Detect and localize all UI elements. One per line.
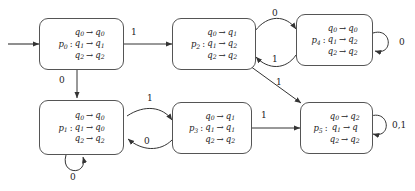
state-p5-label: p5 [313, 123, 324, 133]
edge-label-p1-self: 0 [70, 172, 76, 182]
map-row: q0→q0 [328, 23, 358, 35]
map-row: q1→q2 [328, 34, 358, 46]
edge-p2-p4 [255, 18, 296, 31]
map-row: q0→q1 [205, 111, 235, 123]
edge-label-p3-p5: 1 [261, 110, 267, 120]
map-row: q0→q0 [75, 27, 105, 39]
state-p1-label: p1 [58, 123, 69, 133]
edge-label-p0-p2: 1 [131, 27, 137, 37]
map-row: q2→q2 [328, 46, 358, 58]
edge-label-p4-p2: 1 [272, 54, 278, 64]
edge-p1-p3 [127, 108, 172, 120]
map-row: q0→q0 [75, 110, 105, 122]
edge-label-p2-p4: 0 [272, 8, 278, 18]
automaton-diagram: p0 : q0→q0 q1→q1 q2→q2 p2 : q0→q1 q1→q2 … [0, 0, 415, 191]
self-loop-p5 [371, 115, 386, 134]
map-row: q1→q1 [75, 38, 105, 50]
map-row: q1→q0 [75, 122, 105, 134]
map-row: q2→q2 [205, 134, 235, 146]
state-p0-label: p0 [58, 39, 69, 49]
state-p1-maps: q0→q0 q1→q0 q2→q2 [75, 110, 105, 145]
state-p4-label: p4 [311, 35, 322, 45]
map-row: q1→q1 [205, 122, 235, 134]
edge-label-p4-self: 0 [399, 37, 405, 47]
state-p3-label: p3 [189, 123, 200, 133]
state-p3[interactable]: p3 : q0→q1 q1→q1 q2→q2 [172, 102, 252, 154]
edge-p3-p1 [128, 139, 172, 149]
map-row: q0→q1 [207, 27, 237, 39]
map-row: q1→q2 [207, 38, 237, 50]
map-row: q2→q2 [207, 50, 237, 62]
map-row: q2→q2 [75, 50, 105, 62]
state-p0-maps: q0→q0 q1→q1 q2→q2 [75, 27, 105, 62]
map-row: q0→q2 [330, 111, 360, 123]
map-row: q2→q2 [330, 134, 360, 146]
self-loop-p4 [373, 32, 388, 51]
state-p3-maps: q0→q1 q1→q1 q2→q2 [205, 111, 235, 146]
edge-label-p2-p5: 1 [276, 77, 282, 87]
state-p1[interactable]: p1 : q0→q0 q1→q0 q2→q2 [39, 100, 124, 155]
state-p5[interactable]: p5 : q0→q2 q1→q q2→q2 [300, 102, 373, 154]
state-p5-maps: q0→q2 q1→q q2→q2 [330, 111, 360, 146]
state-p2-label: p2 [191, 39, 202, 49]
state-p0[interactable]: p0 : q0→q0 q1→q1 q2→q2 [39, 18, 124, 70]
edge-label-p0-p1: 0 [59, 75, 65, 85]
state-p2[interactable]: p2 : q0→q1 q1→q2 q2→q2 [172, 18, 256, 70]
map-row: q1→q [330, 122, 360, 134]
map-row: q2→q2 [75, 133, 105, 145]
self-loop-p1 [65, 155, 83, 171]
state-p2-maps: q0→q1 q1→q2 q2→q2 [207, 27, 237, 62]
edge-label-p3-p1: 0 [144, 136, 150, 146]
state-p4-maps: q0→q0 q1→q2 q2→q2 [328, 23, 358, 58]
edge-label-p1-p3: 1 [147, 93, 153, 103]
edge-label-p5-self: 0,1 [392, 120, 406, 130]
state-p4[interactable]: p4 : q0→q0 q1→q2 q2→q2 [296, 14, 373, 66]
